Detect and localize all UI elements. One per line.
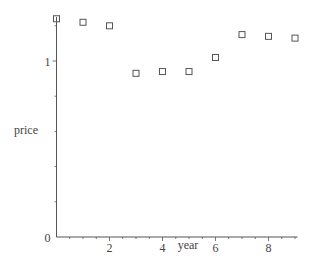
x-tick-label: 2 <box>107 241 113 255</box>
scatter-chart: 246801 year price <box>0 0 317 269</box>
tick-labels: 246801 <box>45 55 272 255</box>
square-marker-icon <box>133 70 139 76</box>
square-marker-icon <box>107 23 113 29</box>
square-marker-icon <box>239 32 245 38</box>
square-marker-icon <box>266 33 272 39</box>
x-tick-label: 8 <box>266 241 272 255</box>
ticks <box>53 26 296 241</box>
square-marker-icon <box>186 69 192 75</box>
axes <box>57 17 298 237</box>
x-tick-label: 4 <box>160 241 166 255</box>
y-axis-label: price <box>14 123 38 137</box>
square-marker-icon <box>80 19 86 25</box>
square-marker-icon <box>292 35 298 41</box>
y-tick-label: 1 <box>45 55 51 69</box>
x-axis-label: year <box>178 238 199 252</box>
square-marker-icon <box>160 69 166 75</box>
y-tick-label: 0 <box>45 231 51 245</box>
data-points <box>54 16 299 77</box>
x-tick-label: 6 <box>213 241 219 255</box>
square-marker-icon <box>213 54 219 60</box>
